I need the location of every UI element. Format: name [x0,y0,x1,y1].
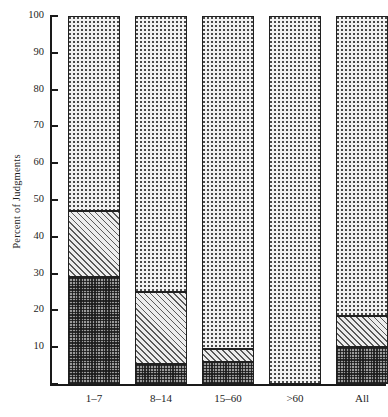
y-tick-label-50: 50 [14,194,44,204]
segment-middle-hatch [135,292,187,364]
segment-top-dotted [68,16,120,211]
segment-middle-hatch [202,349,254,362]
x-axis-line [50,384,386,386]
segment-middle-hatch [68,211,120,277]
segment-bottom-dark [336,347,388,384]
segment-bottom-dark [135,364,187,384]
y-tick-label-60: 60 [14,157,44,167]
y-tick-label-20: 20 [14,304,44,314]
x-label-All: All [336,392,388,404]
y-tick-label-100: 100 [14,10,44,20]
x-label-15–60: 15–60 [202,392,254,404]
stacked-bar-chart: Percent of Judgments 1020304050607080901… [0,0,388,417]
bar-15–60[interactable] [202,16,254,384]
y-tick-label-90: 90 [14,47,44,57]
segment-top-dotted [202,16,254,349]
segment-middle-hatch [336,316,388,347]
y-tick-label-80: 80 [14,84,44,94]
x-label-8–14: 8–14 [135,392,187,404]
bar-All[interactable] [336,16,388,384]
y-tick-label-40: 40 [14,231,44,241]
plot-area [50,16,386,384]
segment-bottom-dark [68,277,120,384]
bar->60[interactable] [269,16,321,384]
bar-1–7[interactable] [68,16,120,384]
segment-top-dotted [336,16,388,316]
y-tick-label-30: 30 [14,268,44,278]
bar-8–14[interactable] [135,16,187,384]
y-tick-label-10: 10 [14,341,44,351]
x-label->60: >60 [269,392,321,404]
segment-top-dotted [135,16,187,292]
x-label-1–7: 1–7 [68,392,120,404]
y-tick-label-70: 70 [14,120,44,130]
segment-bottom-dark [202,362,254,384]
segment-top-dotted [269,16,321,384]
